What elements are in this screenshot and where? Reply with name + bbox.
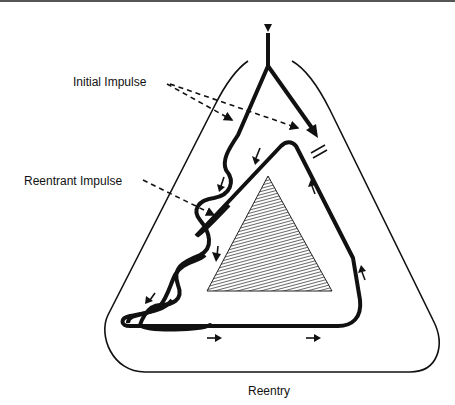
initial-impulse-right-branch xyxy=(268,66,312,128)
diagram-title: Reentry xyxy=(248,384,290,398)
initial-impulse-label: Initial Impulse xyxy=(73,75,146,89)
stimulus-triangle-icon xyxy=(264,24,272,32)
reentrant-impulse-leader xyxy=(143,180,214,215)
reentrant-impulse-label: Reentrant Impulse xyxy=(24,174,122,188)
initial-impulse-leaders xyxy=(167,84,298,128)
reentry-diagram xyxy=(0,0,455,405)
conduction-block-icon xyxy=(311,145,327,158)
